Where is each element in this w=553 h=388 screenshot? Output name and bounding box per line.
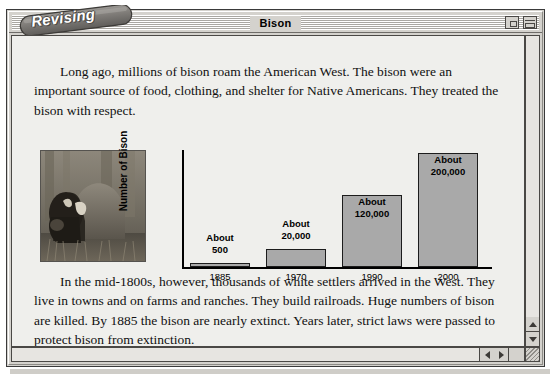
scroll-right-button[interactable]: [494, 348, 509, 361]
vertical-scrollbar[interactable]: [525, 35, 540, 347]
figure-bison-and-chart: Number of Bison About 500 About 20,000: [40, 148, 500, 286]
resize-grip-icon: [526, 348, 539, 361]
triangle-left-icon: [485, 351, 490, 359]
collapse-box-icon-line: [525, 20, 535, 21]
chart-x-axis-line: [182, 267, 492, 269]
application-window: Bison: [6, 9, 545, 367]
window-title: Bison: [250, 16, 300, 30]
zoom-box-button[interactable]: [505, 16, 519, 29]
collapse-box-icon-body: [525, 23, 535, 28]
screenshot-root: Bison: [0, 0, 553, 388]
bar-slot-2: About 120,000: [336, 150, 408, 267]
bison-population-bar-chart: Number of Bison About 500 About 20,000: [158, 148, 500, 286]
paragraph-bottom-text: In the mid-1800s, however, thousands of …: [34, 274, 495, 347]
bar-slot-1: About 20,000: [260, 150, 332, 267]
horizontal-scrollbar[interactable]: [11, 347, 525, 362]
triangle-down-icon: [529, 337, 537, 342]
paragraph-top: Long ago, millions of bison roam the Ame…: [34, 62, 504, 121]
bar-slot-0: About 500: [184, 150, 256, 267]
triangle-up-icon: [529, 322, 537, 327]
bar-0: [190, 263, 250, 267]
vertical-scrollbar-track[interactable]: [526, 36, 539, 318]
horizontal-scrollbar-track[interactable]: [12, 348, 480, 361]
bar-1: [266, 249, 326, 267]
triangle-right-icon: [499, 351, 504, 359]
window-resize-grip[interactable]: [525, 347, 540, 362]
paragraph-top-text: Long ago, millions of bison roam the Ame…: [34, 64, 498, 118]
bar-value-label-3: About 200,000: [412, 154, 484, 177]
chart-y-axis-label: Number of Bison: [118, 118, 129, 224]
scroll-down-button[interactable]: [526, 332, 539, 346]
bar-value-label-1: About 20,000: [260, 218, 332, 241]
scroll-left-button[interactable]: [480, 348, 495, 361]
document-page: Long ago, millions of bison roam the Ame…: [12, 36, 524, 346]
paragraph-bottom: In the mid-1800s, however, thousands of …: [34, 272, 508, 347]
ribbon-shape-icon: [17, 5, 137, 35]
revising-tab[interactable]: Revising: [17, 5, 137, 35]
bison-photo-image: [41, 151, 145, 261]
chart-plot-area: About 500 About 20,000 About 120,000: [184, 150, 492, 267]
bison-photo: [40, 150, 146, 262]
bar-value-label-2: About 120,000: [336, 196, 408, 219]
zoom-box-icon: [510, 21, 517, 27]
scroll-up-button[interactable]: [526, 317, 539, 332]
document-scroll-area[interactable]: Long ago, millions of bison roam the Ame…: [11, 35, 525, 347]
bar-slot-3: About 200,000: [412, 150, 484, 267]
bar-value-label-0: About 500: [184, 232, 256, 255]
collapse-box-button[interactable]: [523, 16, 537, 29]
window-drop-shadow: [10, 369, 550, 374]
